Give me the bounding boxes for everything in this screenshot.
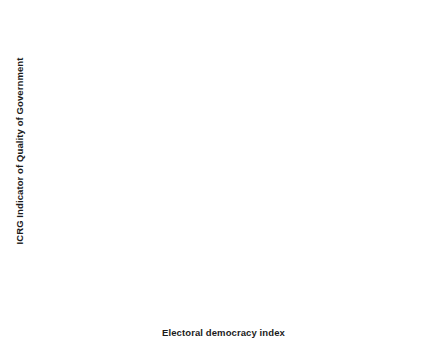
plot-canvas [0, 0, 447, 342]
plot-panel-background [51, 15, 432, 300]
scatter-plot-figure: Electoral democracy index ICRG Indicator… [0, 0, 447, 342]
y-axis-title: ICRG Indicator of Quality of Government [14, 20, 25, 282]
x-axis-title: Electoral democracy index [0, 327, 447, 338]
